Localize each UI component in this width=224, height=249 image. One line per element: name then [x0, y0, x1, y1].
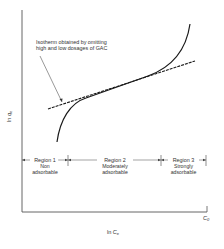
region-1-line-2: adsorbable — [32, 169, 58, 175]
x-axis-label: ln Ce — [107, 229, 119, 237]
region-3-line-2: adsorbable — [171, 169, 197, 175]
region-1-arrowhead-left — [22, 159, 25, 161]
region-1: Region 1 Non adsorbable — [32, 157, 58, 175]
y-axis-label-var: q — [6, 113, 12, 116]
region-2-arrowhead-left — [68, 159, 71, 161]
isotherm-diagram: Isotherm obtained by omitting high and l… — [0, 0, 224, 249]
annotation-leader — [40, 56, 62, 102]
region-2-line-2: adsorbable — [102, 169, 128, 175]
region-3-arrowhead-left — [161, 159, 164, 161]
y-axis-label: ln qe — [6, 111, 14, 122]
y-axis-label-sub: e — [8, 111, 13, 113]
region-3: Region 3 Strongly adsorbable — [171, 157, 197, 175]
region-3-arrowhead-right — [203, 159, 206, 161]
region-2-arrowhead-right — [158, 159, 161, 161]
annotation-line-2: high and low dosages of GAC — [36, 45, 107, 51]
x-axis-label-sub: e — [117, 231, 119, 236]
c0-label: C0 — [203, 215, 209, 223]
c0-sub: 0 — [207, 217, 209, 222]
diagram-canvas — [0, 0, 224, 249]
region-1-arrowhead-right — [65, 159, 68, 161]
region-2: Region 2 Moderately adsorbable — [102, 157, 128, 175]
isotherm-annotation: Isotherm obtained by omitting high and l… — [36, 39, 107, 52]
annotation-arrowhead — [60, 99, 63, 103]
y-axis-label-prefix: ln — [6, 116, 12, 122]
linear-isotherm-dashed — [48, 61, 195, 109]
